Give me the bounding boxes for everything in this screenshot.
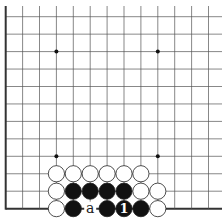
star-point xyxy=(156,154,160,158)
white-stone xyxy=(133,166,149,182)
stones-layer: 1 xyxy=(48,166,166,217)
go-board-diagram: 1 a xyxy=(0,0,222,222)
white-stone xyxy=(82,166,98,182)
black-stone xyxy=(65,201,81,217)
white-stone xyxy=(99,166,115,182)
white-stone xyxy=(48,183,64,199)
white-stone xyxy=(48,201,64,217)
star-point xyxy=(54,154,58,158)
white-stone xyxy=(48,166,64,182)
black-stone xyxy=(133,201,149,217)
white-stone xyxy=(150,183,166,199)
board-grid xyxy=(6,6,222,210)
black-stone xyxy=(65,183,81,199)
white-stone xyxy=(116,166,132,182)
star-point xyxy=(54,50,58,54)
point-label-a: a xyxy=(86,200,94,216)
black-stone xyxy=(82,183,98,199)
white-stone xyxy=(133,183,149,199)
move-number-label: 1 xyxy=(119,201,128,216)
labels-layer: a xyxy=(84,200,96,216)
black-stone xyxy=(116,183,132,199)
star-point xyxy=(156,50,160,54)
white-stone xyxy=(65,166,81,182)
black-stone: 1 xyxy=(116,201,132,217)
white-stone xyxy=(150,201,166,217)
black-stone xyxy=(99,201,115,217)
black-stone xyxy=(99,183,115,199)
